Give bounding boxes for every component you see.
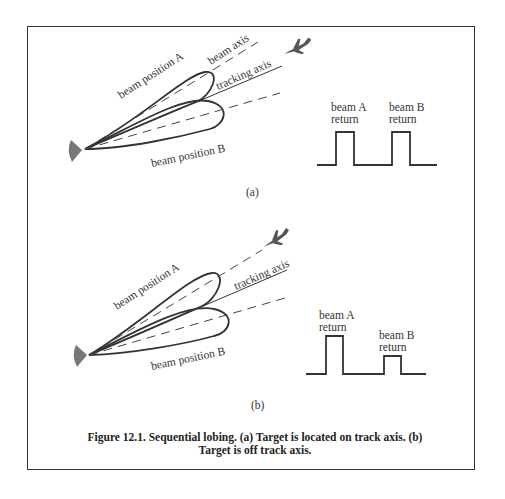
beam-axis-b-line: [85, 93, 280, 149]
panel-a-label: (a): [246, 186, 259, 199]
beam-b-label: beam position B: [150, 344, 227, 372]
beam-b-label: beam position B: [150, 141, 227, 169]
beam-a-label: beam position A: [116, 49, 187, 101]
radar-dish-icon: [74, 345, 87, 367]
beam-a-return-label: beam A: [331, 101, 367, 113]
figure-caption: Figure 12.1. Sequential lobing. (a) Targ…: [60, 431, 450, 457]
panel-a: beam position A beam axis tracking axis …: [69, 31, 437, 199]
return-pulses-b: [306, 336, 426, 374]
beam-b-lobe: [85, 100, 224, 149]
beam-b-return-label-2: return: [379, 341, 407, 353]
radar-dish-icon: [69, 140, 82, 162]
beam-b-return-label: beam B: [389, 101, 425, 113]
caption-line-2: Target is off track axis.: [60, 444, 450, 457]
caption-line-1: Figure 12.1. Sequential lobing. (a) Targ…: [60, 431, 450, 444]
beam-a-return-label-2: return: [319, 321, 347, 333]
beam-a-return-label: beam A: [319, 309, 355, 321]
beam-axis-label: beam axis: [206, 31, 252, 67]
panel-b: beam position A tracking axis beam posit…: [74, 225, 426, 412]
return-pulses-a: [317, 132, 437, 165]
beam-a-return-label-2: return: [331, 113, 359, 125]
tracking-axis-label: tracking axis: [232, 257, 292, 293]
sequential-lobing-diagram: beam position A beam axis tracking axis …: [0, 0, 505, 499]
tracking-axis-line: [85, 66, 282, 149]
beam-b-return-label: beam B: [379, 329, 415, 341]
panel-b-label: (b): [251, 399, 265, 412]
aircraft-icon: [281, 35, 314, 59]
aircraft-icon: [260, 225, 294, 252]
tracking-axis-label: tracking axis: [214, 57, 274, 93]
beam-b-return-label-2: return: [389, 113, 417, 125]
